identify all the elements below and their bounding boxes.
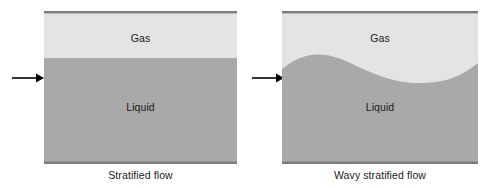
vessel-bottom-wall-stratified (44, 162, 237, 164)
liquid-label-text: Liquid (366, 101, 395, 113)
liquid-label-wavy: Liquid (282, 101, 478, 113)
panel-wavy-stratified-flow: Gas Liquid Wavy stratified flow (248, 0, 495, 188)
caption-text: Stratified flow (108, 169, 173, 181)
caption-wavy-stratified-flow: Wavy stratified flow (282, 169, 478, 181)
panel-stratified-flow: Gas Liquid Stratified flow (0, 0, 248, 188)
arrow-right-icon (12, 71, 45, 85)
arrow-right-icon (252, 71, 285, 85)
gas-label-stratified: Gas (44, 32, 237, 44)
vessel-stratified: Gas Liquid (44, 11, 237, 164)
vessel-wavy-stratified: Gas Liquid (282, 11, 478, 164)
liquid-label-text: Liquid (126, 101, 155, 113)
gas-label-text: Gas (370, 32, 390, 44)
inlet-arrow-right (252, 71, 285, 85)
caption-stratified-flow: Stratified flow (44, 169, 237, 181)
caption-text: Wavy stratified flow (334, 169, 426, 181)
gas-label-wavy: Gas (282, 32, 478, 44)
vessel-bottom-wall-wavy (282, 162, 478, 164)
inlet-arrow-left (12, 71, 45, 85)
two-phase-flow-regime-figure: Gas Liquid Stratified flow (0, 0, 495, 188)
liquid-label-stratified: Liquid (44, 101, 237, 113)
gas-label-text: Gas (131, 32, 151, 44)
vessel-top-wall-stratified (44, 11, 237, 13)
vessel-top-wall-wavy (282, 11, 478, 13)
